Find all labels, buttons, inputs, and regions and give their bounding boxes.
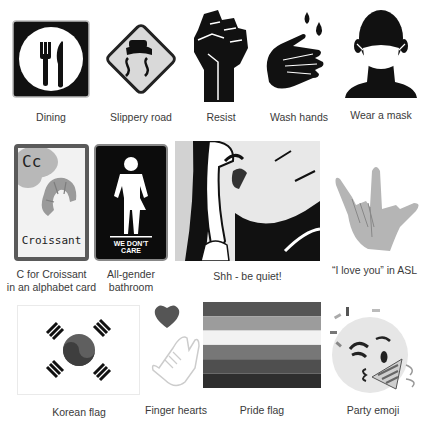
asl-i-love-you-hand-icon [330,165,422,255]
all-gender-bathroom-tile: WE DON'T CARE [94,144,168,261]
wash-hands-caption: Wash hands [258,111,340,124]
card-word: Croissant [18,234,85,247]
party-emoji-tile [326,305,422,397]
slippery-road-tile [100,18,182,100]
bathroom-caption-line1: All-gender [94,268,168,281]
korean-flag-caption: Korean flag [38,406,120,419]
party-face-emoji-icon [326,305,422,397]
asl-love-tile [330,165,422,255]
all-gender-figure-icon [96,148,166,238]
alphabet-card: Cc Croissant [14,144,89,261]
card-letter: Cc [22,152,41,171]
korean-flag-icon [17,305,140,395]
resist-tile [190,8,252,102]
finger-hearts-tile [145,298,203,394]
sign-text-line1: WE DON'T [96,240,166,247]
dining-caption: Dining [12,111,90,124]
croissant-caption-line1: C for Croissant [4,268,99,281]
shh-illustration-icon [175,141,320,261]
wear-a-mask-tile [345,8,417,98]
bathroom-sign: WE DON'T CARE [94,144,168,261]
slippery-road-sign-icon [100,18,182,100]
dining-tile [12,20,90,98]
croissant-caption-line2: in an alphabet card [4,281,99,294]
raised-fist-icon [190,8,252,102]
slippery-road-caption: Slippery road [96,111,186,124]
party-emoji-caption: Party emoji [330,404,416,417]
croissant-card-tile: Cc Croissant [14,144,89,261]
resist-caption: Resist [190,111,252,124]
korean-flag-tile [17,305,140,395]
face-mask-icon [345,8,417,98]
pride-flag-caption: Pride flag [221,404,303,417]
pride-flag-tile [203,302,321,388]
finger-hearts-caption: Finger hearts [138,404,214,417]
shh-tile [175,141,320,261]
asl-love-caption: “I love you” in ASL [322,264,427,277]
wash-hands-icon [263,10,335,96]
finger-heart-icon [145,298,203,394]
bathroom-caption-line2: bathroom [94,281,168,294]
wear-a-mask-caption: Wear a mask [340,109,422,122]
wash-hands-tile [263,10,335,96]
sign-text-line2: CARE [96,247,166,254]
shh-caption: Shh - be quiet! [175,270,320,283]
dining-sign-icon [12,20,90,98]
pride-flag-icon [203,302,321,388]
